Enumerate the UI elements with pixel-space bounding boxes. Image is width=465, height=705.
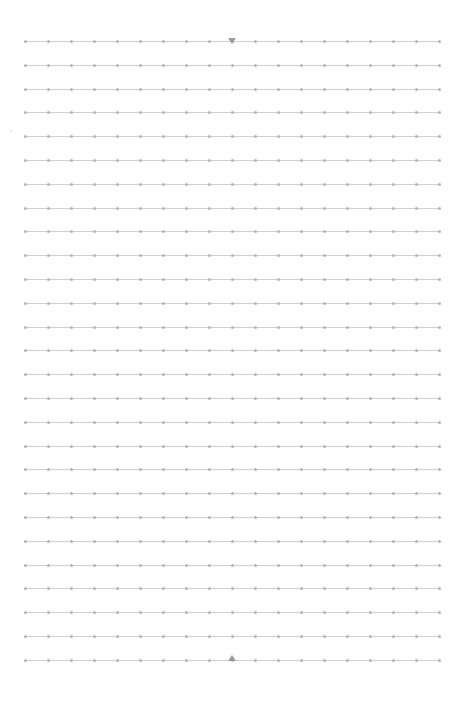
grid-dot [70, 564, 73, 567]
grid-dot [254, 64, 257, 67]
grid-dot [231, 64, 234, 67]
grid-dot [208, 587, 211, 590]
grid-dot [369, 397, 372, 400]
grid-dot [438, 421, 441, 424]
grid-dot [116, 207, 119, 210]
grid-dot [277, 516, 280, 519]
grid-dot [254, 183, 257, 186]
grid-dot [139, 349, 142, 352]
grid-dot [254, 611, 257, 614]
bottom-position-marker-icon[interactable] [228, 655, 236, 661]
grid-dot [300, 135, 303, 138]
grid-dot [208, 135, 211, 138]
grid-dot [24, 587, 27, 590]
grid-dot [300, 397, 303, 400]
grid-dot [277, 611, 280, 614]
grid-dot [162, 64, 165, 67]
grid-dot [323, 88, 326, 91]
grid-dot [185, 587, 188, 590]
grid-dot [438, 230, 441, 233]
grid-dot [208, 111, 211, 114]
grid-dot [300, 421, 303, 424]
grid-dot [300, 659, 303, 662]
grid-dot [438, 254, 441, 257]
grid-dot [116, 183, 119, 186]
grid-dot [392, 326, 395, 329]
grid-dot [438, 540, 441, 543]
grid-dot [162, 659, 165, 662]
grid-dot [139, 326, 142, 329]
grid-dot [208, 564, 211, 567]
grid-dot [70, 659, 73, 662]
grid-dot [93, 135, 96, 138]
grid-line [24, 446, 440, 447]
grid-dot [438, 326, 441, 329]
grid-dot [392, 468, 395, 471]
grid-dot [162, 135, 165, 138]
grid-dot [231, 88, 234, 91]
grid-dot [116, 516, 119, 519]
top-position-marker-icon[interactable] [228, 38, 236, 44]
grid-dot [438, 659, 441, 662]
grid-dot [162, 492, 165, 495]
grid-line [24, 255, 440, 256]
grid-dot [231, 421, 234, 424]
grid-dot [116, 349, 119, 352]
grid-dot [185, 135, 188, 138]
grid-dot [231, 349, 234, 352]
grid-dot [139, 64, 142, 67]
grid-dot [47, 421, 50, 424]
grid-dot [438, 88, 441, 91]
grid-dot [116, 492, 119, 495]
grid-dot [185, 421, 188, 424]
grid-dot [185, 278, 188, 281]
grid-dot [323, 111, 326, 114]
grid-dot [116, 326, 119, 329]
grid-dot [47, 349, 50, 352]
grid-dot [139, 278, 142, 281]
grid-dot [162, 349, 165, 352]
grid-line [24, 184, 440, 185]
grid-dot [277, 349, 280, 352]
grid-dot [185, 492, 188, 495]
grid-dot [70, 40, 73, 43]
grid-dot [346, 159, 349, 162]
grid-dot [208, 302, 211, 305]
grid-dot [185, 540, 188, 543]
grid-dot [47, 516, 50, 519]
grid-line [24, 160, 440, 161]
grid-dot [277, 40, 280, 43]
grid-dot [323, 183, 326, 186]
grid-dot [139, 230, 142, 233]
grid-dot [24, 159, 27, 162]
grid-dot [47, 540, 50, 543]
grid-dot [208, 349, 211, 352]
grid-dot [438, 373, 441, 376]
grid-dot [277, 564, 280, 567]
grid-dot [346, 587, 349, 590]
grid-dot [185, 397, 188, 400]
grid-line [24, 303, 440, 304]
grid-dot [438, 135, 441, 138]
grid-dot [277, 326, 280, 329]
grid-dot [323, 326, 326, 329]
grid-dot [415, 40, 418, 43]
grid-dot [139, 421, 142, 424]
grid-dot [392, 492, 395, 495]
grid-dot [70, 207, 73, 210]
grid-dot [323, 64, 326, 67]
grid-dot [323, 254, 326, 257]
grid-dot [231, 254, 234, 257]
grid-dot [369, 302, 372, 305]
grid-dot [392, 516, 395, 519]
grid-dot [346, 278, 349, 281]
grid-dot [162, 159, 165, 162]
grid-dot [323, 445, 326, 448]
grid-dot [346, 445, 349, 448]
grid-dot [277, 397, 280, 400]
grid-dot [93, 254, 96, 257]
grid-dot [93, 64, 96, 67]
grid-dot [139, 40, 142, 43]
grid-dot [208, 635, 211, 638]
grid-dot [93, 516, 96, 519]
